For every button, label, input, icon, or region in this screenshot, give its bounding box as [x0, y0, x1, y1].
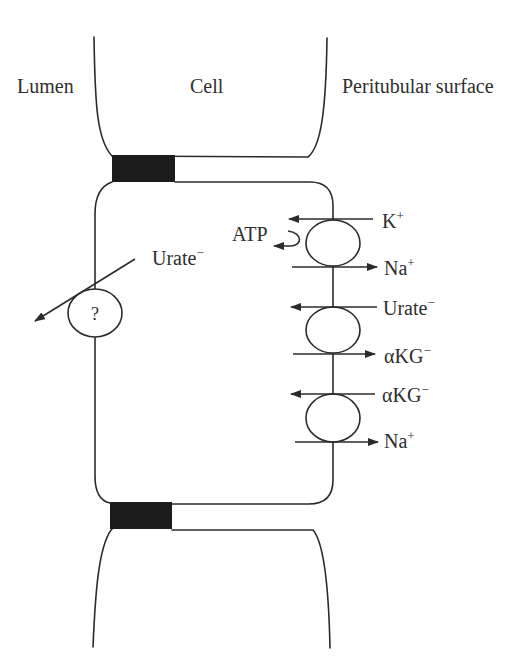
- apical-urate-label: Urate−: [152, 245, 204, 269]
- lower-tight-junction: [110, 502, 172, 529]
- na-akg-cotransporter: [306, 394, 360, 442]
- urate-akg-exchanger: [306, 307, 360, 353]
- unknown-transporter-mark: ?: [91, 304, 99, 324]
- lower-cell-outline: [93, 529, 330, 648]
- upper-cell-outline: [94, 37, 327, 157]
- urate-label-basolateral: Urate−: [383, 295, 435, 319]
- atp-hydrolysis-arrow: [274, 231, 300, 246]
- lumen-label: Lumen: [17, 75, 74, 97]
- akg-label-2: αKG−: [382, 382, 429, 406]
- upper-tight-junction: [112, 155, 175, 182]
- cell-membrane: [95, 182, 333, 504]
- akg-label-1: αKG−: [384, 343, 431, 367]
- peritubular-surface-label: Peritubular surface: [342, 75, 494, 97]
- na-k-pump: [306, 220, 360, 266]
- k-label: K+: [382, 208, 404, 232]
- na-label-2: Na+: [384, 428, 415, 452]
- na-label-1: Na+: [384, 255, 415, 279]
- atp-label: ATP: [232, 223, 268, 245]
- cell-label: Cell: [190, 75, 224, 97]
- diagram-canvas: Lumen Cell Peritubular surface ? Urate− …: [0, 0, 531, 667]
- urate-transport-diagram: Lumen Cell Peritubular surface ? Urate− …: [0, 0, 531, 667]
